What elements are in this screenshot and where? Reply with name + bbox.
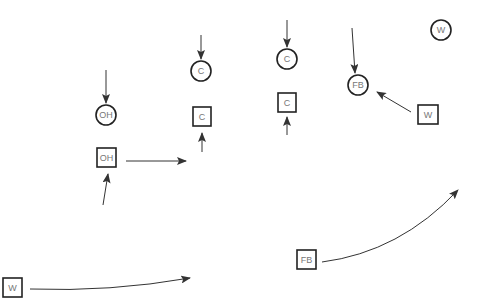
arrow-to-fb-circle bbox=[352, 28, 355, 73]
arrow-w-square-to-fb bbox=[377, 92, 411, 112]
player-label: C bbox=[199, 112, 206, 122]
curve-arrow-fb-square bbox=[322, 190, 458, 262]
player-label: C bbox=[198, 66, 205, 76]
player-label: FB bbox=[301, 255, 313, 265]
player-square-fb: FB bbox=[297, 250, 316, 269]
player-label: W bbox=[8, 283, 17, 293]
player-square-c-left: C bbox=[193, 107, 211, 126]
player-circle-oh: OH bbox=[96, 105, 116, 125]
player-label: W bbox=[424, 110, 433, 120]
player-label: W bbox=[437, 25, 446, 35]
player-square-c-right: C bbox=[278, 93, 296, 112]
arrow-to-oh-square bbox=[103, 174, 108, 205]
player-label: OH bbox=[99, 110, 113, 120]
player-circle-c-left: C bbox=[191, 61, 211, 81]
player-circle-fb: FB bbox=[348, 75, 368, 95]
player-label: OH bbox=[100, 153, 114, 163]
player-label: C bbox=[284, 98, 291, 108]
player-square-oh: OH bbox=[97, 148, 116, 167]
play-diagram: OH C C FB W OH C C W W FB bbox=[0, 0, 486, 307]
player-label: C bbox=[284, 54, 291, 64]
player-circle-c-right: C bbox=[277, 49, 297, 69]
player-circle-w: W bbox=[431, 20, 451, 40]
player-square-w-left: W bbox=[3, 278, 22, 297]
player-label: FB bbox=[352, 80, 364, 90]
curve-arrow-w-square-left bbox=[30, 278, 190, 290]
player-square-w-right: W bbox=[418, 105, 438, 124]
